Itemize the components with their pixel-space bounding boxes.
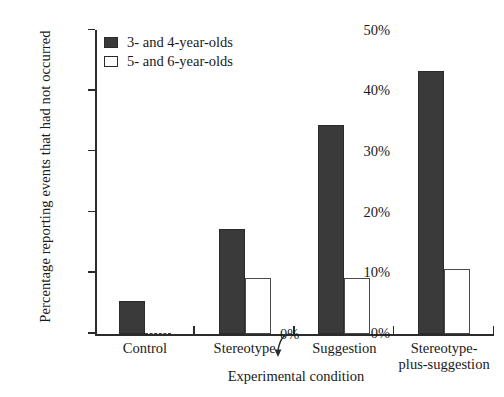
x-tick-3 bbox=[393, 326, 395, 334]
x-category-label-1: Stereotype bbox=[195, 341, 295, 357]
bar-chart: Percentage reporting events that had not… bbox=[0, 0, 504, 397]
bar-1-0 bbox=[219, 229, 245, 333]
legend-item-1: 5- and 6-year-olds bbox=[104, 52, 233, 71]
legend-label-0: 3- and 4-year-olds bbox=[127, 34, 233, 51]
y-tick-30 bbox=[88, 150, 95, 152]
legend-label-1: 5- and 6-year-olds bbox=[127, 53, 233, 70]
y-tick-label-40: 40% bbox=[330, 83, 390, 98]
bar-2-1 bbox=[344, 278, 370, 333]
zero-annotation-label: 0% bbox=[280, 326, 299, 343]
x-tick-0 bbox=[95, 326, 97, 334]
y-axis-title: Percentage reporting events that had not… bbox=[37, 22, 54, 332]
y-tick-0 bbox=[88, 332, 95, 334]
x-tick-1 bbox=[193, 326, 195, 334]
y-tick-50 bbox=[88, 29, 95, 31]
y-tick-label-50: 50% bbox=[330, 23, 390, 38]
bar-1-1 bbox=[245, 278, 271, 333]
legend: 3- and 4-year-olds 5- and 6-year-olds bbox=[104, 33, 233, 71]
x-category-label-3: Stereotype- plus-suggestion bbox=[394, 341, 494, 372]
plot-area: 0%10%20%30%40%50% ControlStereotypeSugge… bbox=[95, 30, 494, 335]
y-tick-10 bbox=[88, 271, 95, 273]
bar-3-0 bbox=[418, 71, 444, 333]
bar-0-1 bbox=[145, 333, 171, 334]
x-category-label-0: Control bbox=[95, 341, 195, 357]
legend-swatch-open-square-icon bbox=[104, 56, 118, 67]
y-tick-40 bbox=[88, 89, 95, 91]
y-tick-20 bbox=[88, 211, 95, 213]
x-tick-4 bbox=[493, 326, 495, 334]
legend-item-0: 3- and 4-year-olds bbox=[104, 33, 233, 52]
bar-0-0 bbox=[119, 301, 145, 333]
y-axis-line bbox=[95, 30, 97, 335]
bar-3-1 bbox=[444, 269, 470, 333]
bar-2-0 bbox=[318, 125, 344, 334]
legend-swatch-filled-square-icon bbox=[104, 37, 118, 48]
x-category-label-2: Suggestion bbox=[295, 341, 395, 357]
